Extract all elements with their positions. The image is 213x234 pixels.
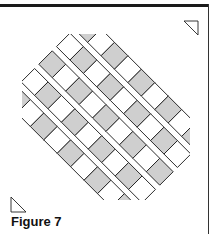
corner-triangle-top-right xyxy=(184,21,198,35)
quilt-diagram xyxy=(0,0,213,234)
figure-caption: Figure 7 xyxy=(11,214,62,229)
corner-triangle-bottom-left xyxy=(11,197,26,212)
